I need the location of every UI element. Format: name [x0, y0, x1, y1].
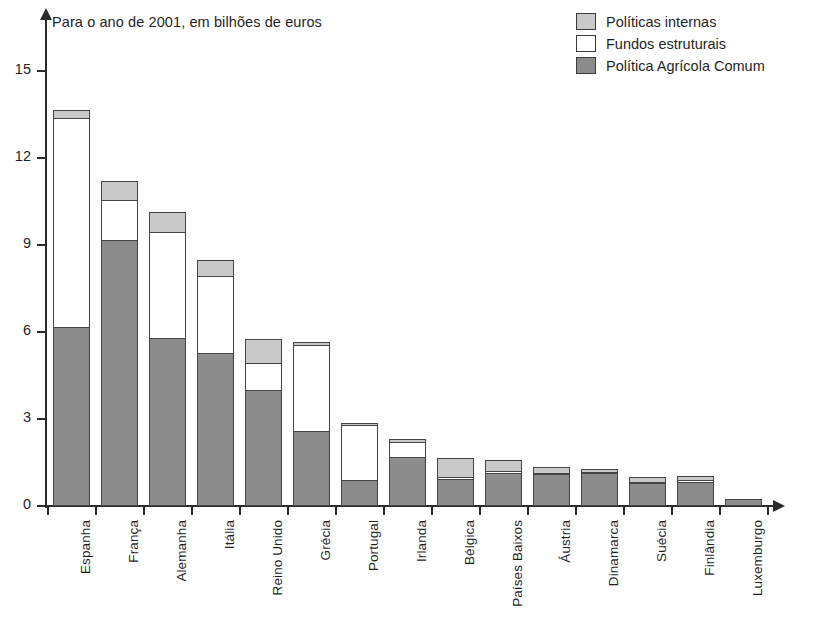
x-axis-label-itália: Itália — [222, 520, 237, 549]
y-tick-label: 12 — [0, 148, 31, 164]
y-tick-label: 9 — [0, 235, 31, 251]
x-tick-mark — [143, 506, 145, 515]
y-tick-label: 0 — [0, 496, 31, 512]
bar-espanha — [53, 110, 90, 505]
y-tick-mark — [37, 157, 46, 159]
x-axis-label-suécia: Suécia — [654, 520, 669, 562]
chart-legend: Políticas internasFundos estruturaisPolí… — [576, 11, 815, 77]
x-tick-mark — [719, 506, 721, 515]
bar-segment-politica_agricola_comum — [437, 479, 474, 507]
x-axis-label-reino-unido: Reino Unido — [270, 520, 285, 595]
bar-segment-politicas_internas — [101, 181, 138, 201]
y-tick-mark — [37, 505, 46, 507]
bar-irlanda — [389, 439, 426, 505]
bar-segment-politicas_internas — [245, 339, 282, 364]
bar-segment-fundos_estruturais — [149, 232, 186, 339]
x-tick-mark — [527, 506, 529, 515]
bar-frança — [101, 181, 138, 505]
bar-segment-politica_agricola_comum — [341, 480, 378, 506]
bar-segment-politica_agricola_comum — [629, 483, 666, 506]
y-tick-label: 6 — [0, 322, 31, 338]
x-tick-mark — [95, 506, 97, 515]
legend-item-politicas_internas: Políticas internas — [576, 11, 815, 32]
bar-segment-politicas_internas — [149, 212, 186, 234]
bar-segment-politica_agricola_comum — [389, 457, 426, 506]
x-axis-label-áustria: Áustria — [558, 520, 573, 563]
x-axis-label-finlândia: Finlândia — [702, 520, 717, 576]
legend-label: Política Agrícola Comum — [606, 58, 765, 74]
y-tick-mark — [37, 331, 46, 333]
bar-segment-politica_agricola_comum — [245, 390, 282, 506]
x-axis-label-frança: França — [126, 520, 141, 563]
bar-dinamarca — [581, 469, 618, 505]
x-axis-label-luxemburgo: Luxemburgo — [750, 520, 765, 596]
bar-segment-politicas_internas — [437, 458, 474, 478]
legend-swatch-icon — [576, 35, 596, 52]
x-axis-label-grécia: Grécia — [318, 520, 333, 560]
legend-label: Políticas internas — [606, 14, 716, 30]
bar-segment-politica_agricola_comum — [485, 473, 522, 506]
bar-suécia — [629, 477, 666, 505]
bar-grécia — [293, 342, 330, 505]
bar-áustria — [533, 467, 570, 505]
bar-chart: Para o ano de 2001, em bilhões de euros … — [0, 0, 815, 625]
bar-segment-fundos_estruturais — [101, 200, 138, 241]
bar-segment-fundos_estruturais — [245, 363, 282, 392]
bar-segment-fundos_estruturais — [53, 118, 90, 328]
x-tick-mark — [479, 506, 481, 515]
x-axis-label-bélgica: Bélgica — [462, 520, 477, 565]
bar-segment-politica_agricola_comum — [725, 499, 762, 506]
bar-segment-politica_agricola_comum — [293, 431, 330, 506]
x-axis-label-países-baixos: Países Baixos — [510, 520, 525, 607]
x-tick-mark — [287, 506, 289, 515]
bar-segment-politica_agricola_comum — [197, 353, 234, 507]
bar-finlândia — [677, 476, 714, 505]
x-tick-mark — [767, 506, 769, 515]
x-axis-label-portugal: Portugal — [366, 520, 381, 571]
x-tick-mark — [623, 506, 625, 515]
x-tick-mark — [671, 506, 673, 515]
bar-segment-fundos_estruturais — [293, 345, 330, 432]
x-tick-mark — [575, 506, 577, 515]
legend-item-fundos_estruturais: Fundos estruturais — [576, 33, 815, 54]
bar-bélgica — [437, 458, 474, 505]
legend-swatch-icon — [576, 57, 596, 74]
legend-item-politica_agricola_comum: Política Agrícola Comum — [576, 55, 815, 76]
bar-itália — [197, 260, 234, 505]
bar-países-baixos — [485, 460, 522, 505]
x-axis-arrow-icon — [773, 500, 785, 512]
bar-reino-unido — [245, 339, 282, 505]
bar-segment-politica_agricola_comum — [581, 473, 618, 506]
bar-segment-politica_agricola_comum — [533, 474, 570, 506]
x-axis-label-dinamarca: Dinamarca — [606, 520, 621, 586]
x-axis-label-alemanha: Alemanha — [174, 520, 189, 582]
x-axis-label-espanha: Espanha — [78, 520, 93, 574]
x-axis-label-irlanda: Irlanda — [414, 520, 429, 562]
bar-segment-fundos_estruturais — [389, 442, 426, 458]
x-tick-mark — [239, 506, 241, 515]
y-axis-line — [45, 18, 47, 508]
bar-segment-politica_agricola_comum — [149, 338, 186, 506]
legend-label: Fundos estruturais — [606, 36, 726, 52]
bar-luxemburgo — [725, 499, 762, 505]
bar-portugal — [341, 423, 378, 505]
chart-subtitle: Para o ano de 2001, em bilhões de euros — [52, 14, 322, 30]
y-tick-mark — [37, 244, 46, 246]
bar-segment-fundos_estruturais — [341, 425, 378, 482]
bar-alemanha — [149, 212, 186, 505]
x-tick-mark — [335, 506, 337, 515]
bar-segment-fundos_estruturais — [197, 276, 234, 354]
x-tick-mark — [47, 506, 49, 515]
x-tick-mark — [383, 506, 385, 515]
legend-swatch-icon — [576, 13, 596, 30]
y-tick-label: 3 — [0, 409, 31, 425]
y-tick-label: 15 — [0, 61, 31, 77]
bar-segment-politica_agricola_comum — [53, 327, 90, 507]
bar-segment-politica_agricola_comum — [101, 240, 138, 507]
bar-segment-politicas_internas — [197, 260, 234, 277]
y-tick-mark — [37, 418, 46, 420]
y-tick-mark — [37, 70, 46, 72]
x-tick-mark — [191, 506, 193, 515]
x-tick-mark — [431, 506, 433, 515]
bar-segment-politica_agricola_comum — [677, 482, 714, 507]
